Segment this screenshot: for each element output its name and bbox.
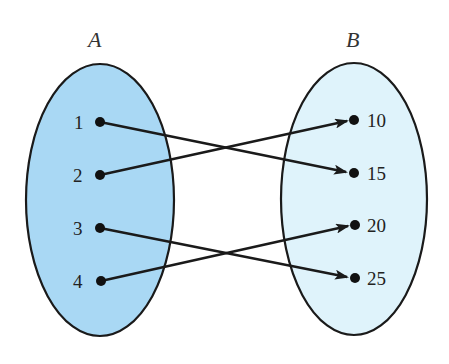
element-label-20: 20 — [367, 215, 386, 236]
dot-25 — [350, 273, 360, 283]
dot-15 — [349, 168, 359, 178]
element-label-1: 1 — [74, 112, 84, 133]
dot-10 — [349, 115, 359, 125]
set-a-ellipse — [26, 64, 174, 336]
element-label-3: 3 — [73, 218, 83, 239]
element-label-4: 4 — [73, 271, 83, 292]
element-label-10: 10 — [367, 110, 386, 131]
element-label-2: 2 — [73, 165, 83, 186]
set-b-ellipse — [281, 63, 427, 335]
set-b-title: B — [346, 27, 359, 52]
element-label-25: 25 — [367, 268, 386, 289]
element-label-15: 15 — [367, 163, 386, 184]
dot-3 — [95, 223, 105, 233]
dot-4 — [96, 276, 106, 286]
mapping-diagram: A B 1 2 3 4 10 15 20 25 — [0, 0, 449, 364]
set-a-title: A — [86, 27, 102, 52]
dot-2 — [95, 170, 105, 180]
dot-1 — [95, 117, 105, 127]
dot-20 — [350, 220, 360, 230]
